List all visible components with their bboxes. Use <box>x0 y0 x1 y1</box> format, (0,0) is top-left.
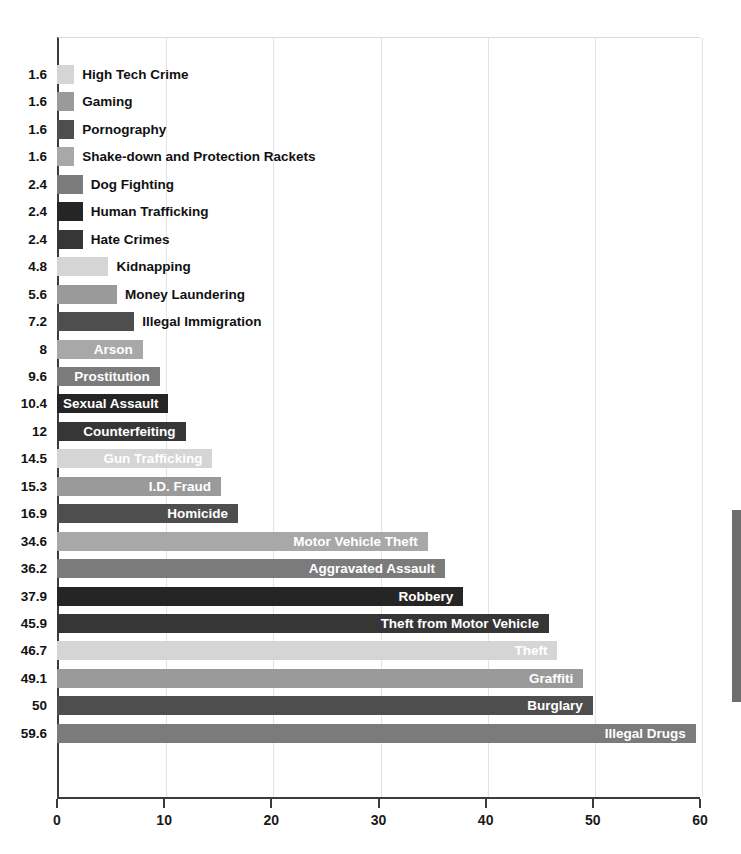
bar-value-label: 16.9 <box>0 504 47 523</box>
bar-value-label: 7.2 <box>0 312 47 331</box>
bar-category-label: Burglary <box>57 696 583 715</box>
bar-category-label: Prostitution <box>57 367 150 386</box>
bar-value-label: 49.1 <box>0 669 47 688</box>
bar-value-label: 2.4 <box>0 230 47 249</box>
x-tick-10 <box>163 799 165 808</box>
x-tick-label-50: 50 <box>585 812 601 828</box>
bar-category-label: Money Laundering <box>125 285 245 304</box>
bar-value-label: 2.4 <box>0 175 47 194</box>
bar-category-label: Aggravated Assault <box>57 559 435 578</box>
bar-value-label: 1.6 <box>0 120 47 139</box>
x-tick-0 <box>56 799 58 808</box>
bar[interactable] <box>57 230 83 249</box>
bar-category-label: Kidnapping <box>116 257 190 276</box>
bar-value-label: 2.4 <box>0 202 47 221</box>
gridline-60 <box>702 38 703 797</box>
bar-category-label: Theft <box>57 641 547 660</box>
x-tick-40 <box>485 799 487 808</box>
bar-category-label: Motor Vehicle Theft <box>57 532 418 551</box>
x-tick-50 <box>592 799 594 808</box>
bar-category-label: Gaming <box>82 92 132 111</box>
bar-value-label: 15.3 <box>0 477 47 496</box>
bar-category-label: Arson <box>57 340 133 359</box>
bar-value-label: 1.6 <box>0 92 47 111</box>
bar-value-label: 1.6 <box>0 65 47 84</box>
bar-value-label: 4.8 <box>0 257 47 276</box>
x-tick-label-60: 60 <box>692 812 708 828</box>
bar[interactable] <box>57 92 74 111</box>
x-tick-label-30: 30 <box>371 812 387 828</box>
bar-category-label: Shake-down and Protection Rackets <box>82 147 315 166</box>
bar-category-label: Homicide <box>57 504 228 523</box>
gridline-50 <box>595 38 596 797</box>
x-tick-label-40: 40 <box>478 812 494 828</box>
horizontal-bar-chart: 1.6High Tech Crime1.6Gaming1.6Pornograph… <box>0 0 741 854</box>
x-tick-label-0: 0 <box>53 812 61 828</box>
bar-category-label: Dog Fighting <box>91 175 174 194</box>
bar-category-label: Robbery <box>57 587 453 606</box>
bar-category-label: Hate Crimes <box>91 230 170 249</box>
bar-category-label: Gun Trafficking <box>57 449 202 468</box>
bar-value-label: 14.5 <box>0 449 47 468</box>
bar[interactable] <box>57 202 83 221</box>
x-tick-60 <box>699 799 701 808</box>
bar-category-label: Human Trafficking <box>91 202 209 221</box>
bar-category-label: Sexual Assault <box>57 394 158 413</box>
bar[interactable] <box>57 257 108 276</box>
bar[interactable] <box>57 65 74 84</box>
bar-value-label: 36.2 <box>0 559 47 578</box>
bar-category-label: High Tech Crime <box>82 65 188 84</box>
bar[interactable] <box>57 312 134 331</box>
bar-category-label: Illegal Immigration <box>142 312 261 331</box>
bar-value-label: 9.6 <box>0 367 47 386</box>
bar-value-label: 5.6 <box>0 285 47 304</box>
bar-value-label: 45.9 <box>0 614 47 633</box>
x-tick-30 <box>378 799 380 808</box>
x-tick-label-20: 20 <box>264 812 280 828</box>
bar-value-label: 50 <box>0 696 47 715</box>
bar-category-label: Illegal Drugs <box>57 724 686 743</box>
page-edge-artifact <box>732 510 741 702</box>
bar-category-label: I.D. Fraud <box>57 477 211 496</box>
bar-value-label: 8 <box>0 340 47 359</box>
bar[interactable] <box>57 120 74 139</box>
bar[interactable] <box>57 147 74 166</box>
bar-value-label: 34.6 <box>0 532 47 551</box>
bar-category-label: Graffiti <box>57 669 573 688</box>
bar[interactable] <box>57 175 83 194</box>
bar-value-label: 46.7 <box>0 641 47 660</box>
bar-value-label: 12 <box>0 422 47 441</box>
bar-category-label: Counterfeiting <box>57 422 176 441</box>
x-tick-label-10: 10 <box>156 812 172 828</box>
bar-value-label: 10.4 <box>0 394 47 413</box>
bar-category-label: Pornography <box>82 120 166 139</box>
bar-value-label: 59.6 <box>0 724 47 743</box>
x-tick-20 <box>270 799 272 808</box>
bar[interactable] <box>57 285 117 304</box>
bar-value-label: 37.9 <box>0 587 47 606</box>
bar-category-label: Theft from Motor Vehicle <box>57 614 539 633</box>
bar-value-label: 1.6 <box>0 147 47 166</box>
